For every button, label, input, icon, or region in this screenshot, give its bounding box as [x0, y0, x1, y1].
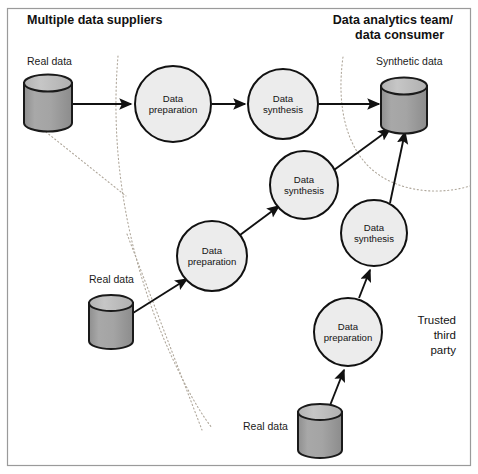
node-label-line1: Data [338, 321, 359, 332]
node-label-line2: preparation [188, 256, 237, 267]
trusted-third-party-line3: party [430, 344, 456, 356]
heading-data-analytics-team-line1: Data analytics team/ [333, 13, 454, 27]
node-label-line1: Data [364, 222, 385, 233]
cylinder-top [24, 75, 72, 92]
node-prep-1[interactable]: Data preparation [135, 66, 211, 142]
node-synth-3[interactable]: Data synthesis [341, 200, 407, 266]
diagram-canvas: Data preparation Data synthesis Data syn… [0, 0, 478, 474]
node-label-line2: preparation [324, 332, 373, 343]
trusted-third-party-line2: third [434, 329, 456, 341]
heading-data-analytics-team-line2: data consumer [355, 28, 444, 42]
caption-real-data-bottom: Real data [243, 420, 288, 432]
node-label-line1: Data [273, 93, 294, 104]
trusted-third-party-line1: Trusted [417, 314, 456, 326]
caption-real-data-middle: Real data [89, 273, 134, 285]
node-label-line1: Data [294, 174, 315, 185]
datastore-real-data-top[interactable] [24, 75, 72, 132]
node-label-line2: synthesis [263, 104, 303, 115]
cylinder-top [298, 404, 342, 420]
node-label-line1: Data [163, 93, 184, 104]
node-label-line2: synthesis [284, 185, 324, 196]
cylinder-top [381, 78, 427, 95]
figure-container: Data preparation Data synthesis Data syn… [0, 0, 478, 474]
caption-real-data-top: Real data [27, 55, 72, 67]
node-label-line2: preparation [149, 104, 198, 115]
datastore-real-data-middle[interactable] [89, 295, 133, 349]
node-prep-2[interactable]: Data preparation [177, 221, 247, 291]
heading-multiple-data-suppliers: Multiple data suppliers [27, 13, 162, 27]
node-label-line1: Data [202, 245, 223, 256]
node-prep-3[interactable]: Data preparation [314, 298, 382, 366]
node-label-line2: synthesis [354, 233, 394, 244]
caption-synthetic-data: Synthetic data [376, 55, 443, 67]
cylinder-top [89, 295, 133, 311]
node-synth-1[interactable]: Data synthesis [248, 69, 318, 139]
datastore-synthetic-data[interactable] [381, 78, 427, 134]
datastore-real-data-bottom[interactable] [298, 404, 342, 458]
node-synth-2[interactable]: Data synthesis [270, 151, 338, 219]
